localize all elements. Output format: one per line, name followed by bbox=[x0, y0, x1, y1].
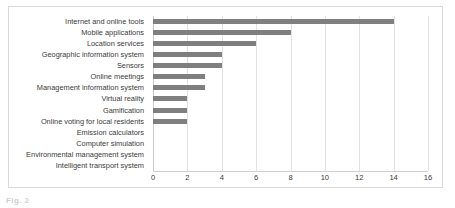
x-tick-label: 6 bbox=[254, 173, 258, 182]
x-tick-label: 12 bbox=[355, 173, 363, 182]
bar-row bbox=[153, 93, 428, 104]
x-tick-label: 4 bbox=[220, 173, 224, 182]
bar-series bbox=[153, 16, 428, 171]
bar-row bbox=[153, 116, 428, 127]
category-label: Gamification bbox=[9, 105, 149, 116]
bar[interactable] bbox=[153, 74, 205, 79]
bar-row bbox=[153, 82, 428, 93]
category-label: Computer simulation bbox=[9, 138, 149, 149]
category-label: Mobile applications bbox=[9, 27, 149, 38]
category-label: Emission calculators bbox=[9, 127, 149, 138]
x-tick-label: 14 bbox=[389, 173, 397, 182]
category-label: Online voting for local residents bbox=[9, 116, 149, 127]
bar-row bbox=[153, 49, 428, 60]
category-label: Management information system bbox=[9, 82, 149, 93]
bar-row bbox=[153, 127, 428, 138]
bar-row bbox=[153, 160, 428, 171]
category-label: Virtual reality bbox=[9, 93, 149, 104]
x-tick-label: 10 bbox=[321, 173, 329, 182]
bar-row bbox=[153, 138, 428, 149]
bar[interactable] bbox=[153, 19, 394, 24]
category-label: Location services bbox=[9, 38, 149, 49]
bar-row bbox=[153, 60, 428, 71]
plot-area bbox=[153, 16, 428, 171]
figure-caption: Fig. 2 bbox=[6, 196, 29, 207]
x-axis-line bbox=[153, 171, 428, 172]
figure-container: Internet and online toolsMobile applicat… bbox=[0, 0, 455, 208]
bar[interactable] bbox=[153, 30, 291, 35]
bar-row bbox=[153, 27, 428, 38]
bar[interactable] bbox=[153, 85, 205, 90]
bar[interactable] bbox=[153, 119, 187, 124]
x-tick-label: 8 bbox=[288, 173, 292, 182]
chart-frame: Internet and online toolsMobile applicat… bbox=[8, 6, 443, 188]
gridline-16 bbox=[428, 16, 429, 171]
category-label: Online meetings bbox=[9, 71, 149, 82]
category-axis-labels: Internet and online toolsMobile applicat… bbox=[9, 16, 149, 171]
category-label: Internet and online tools bbox=[9, 16, 149, 27]
x-tick-label: 16 bbox=[424, 173, 432, 182]
bar-row bbox=[153, 149, 428, 160]
x-axis-tick-labels: 0246810121416 bbox=[153, 173, 428, 187]
category-label: Environmental management system bbox=[9, 149, 149, 160]
x-tick-label: 2 bbox=[185, 173, 189, 182]
bar[interactable] bbox=[153, 52, 222, 57]
x-tick-label: 0 bbox=[151, 173, 155, 182]
bar-row bbox=[153, 71, 428, 82]
category-label: Geographic information system bbox=[9, 49, 149, 60]
bar[interactable] bbox=[153, 96, 187, 101]
bar-row bbox=[153, 16, 428, 27]
category-label: Intelligent transport system bbox=[9, 160, 149, 171]
bar[interactable] bbox=[153, 108, 187, 113]
bar-row bbox=[153, 105, 428, 116]
bar[interactable] bbox=[153, 63, 222, 68]
category-label: Sensors bbox=[9, 60, 149, 71]
bar-row bbox=[153, 38, 428, 49]
bar[interactable] bbox=[153, 41, 256, 46]
